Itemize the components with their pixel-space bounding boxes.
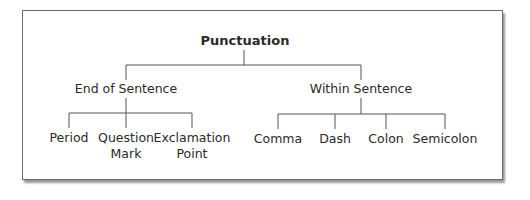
leaf-label-line1: Exclamation [154,130,231,146]
tree-connectors [0,0,530,200]
leaf-label: Colon [368,131,403,147]
leaf-node-exclamation-point: Exclamation Point [154,130,231,162]
leaf-label: Dash [319,131,351,147]
leaf-label: Semicolon [413,131,478,147]
leaf-node-question-mark: Question Mark [98,130,154,162]
leaf-node-period: Period [50,130,89,146]
leaf-label: Period [50,130,89,146]
branch-node-end-of-sentence: End of Sentence [75,81,177,97]
leaf-label: Comma [254,131,302,147]
leaf-label-line2: Mark [98,146,154,162]
leaf-label-line2: Point [154,146,231,162]
root-node: Punctuation [201,33,290,49]
branch-node-within-sentence: Within Sentence [310,81,412,97]
leaf-node-comma: Comma [254,131,302,147]
leaf-node-dash: Dash [319,131,351,147]
leaf-node-semicolon: Semicolon [413,131,478,147]
leaf-label-line1: Question [98,130,154,146]
leaf-node-colon: Colon [368,131,403,147]
